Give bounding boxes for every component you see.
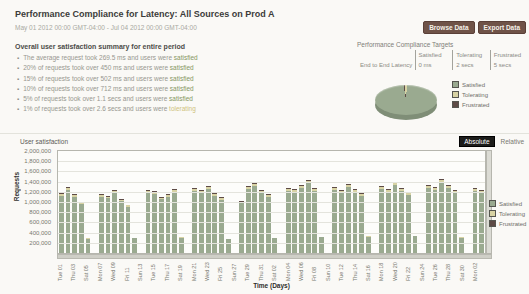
y-axis-label: 1,400,000 (24, 179, 51, 185)
y-axis-label: 600,000 (29, 219, 51, 225)
x-slot: Mon 07 (97, 260, 104, 281)
bar-segment-satisfied (132, 238, 137, 253)
stacked-bar (132, 238, 137, 253)
x-axis-title: Time (Days) (57, 282, 486, 289)
bar-segment-satisfied (212, 196, 217, 253)
pie-chart[interactable] (375, 85, 437, 115)
stacked-bar (79, 202, 84, 253)
targets-title: Performance Compliance Targets (357, 41, 528, 48)
tolerating-legend-swatch (489, 210, 496, 217)
browse-data-button[interactable]: Browse Data (423, 21, 474, 34)
summary-bullet: 5% of requests took over 1.1 secs and us… (17, 94, 198, 104)
bar-segment-satisfied (226, 239, 231, 253)
legend-label: Tolerating (462, 92, 488, 98)
frustrated-legend-swatch (489, 220, 496, 227)
legend-item-satisfied: Satisfied (489, 200, 526, 207)
targets-header-satisfied: Satisfied (415, 50, 453, 60)
stacked-bar (106, 196, 111, 253)
x-slot: Fri 08 (312, 260, 319, 281)
bullet-text: 10% of requests took over 712 ms and use… (23, 85, 170, 92)
bar-segment-satisfied (72, 197, 77, 253)
bar-segment-satisfied (59, 196, 64, 253)
x-slot: Wed 09 (111, 260, 118, 281)
x-slot (345, 260, 352, 281)
y-axis-label: 1,600,000 (24, 168, 51, 174)
bar-segment-satisfied (79, 204, 84, 253)
legend-item-frustrated: Frustrated (489, 220, 526, 227)
gridline (58, 222, 485, 223)
legend-item-tolerating: Tolerating (452, 91, 489, 98)
x-axis-label: Thu 31 (259, 260, 265, 281)
bar-segment-satisfied (166, 197, 171, 253)
bar-segment-satisfied (272, 238, 277, 253)
relative-button[interactable]: Relative (499, 137, 526, 146)
x-axis-labels: Tue 01Thu 03Sat 05Mon 07Wed 09Fri 11Sun … (57, 260, 486, 281)
bar-segment-satisfied (366, 237, 371, 253)
header-buttons: Browse Data Export Data (423, 21, 526, 34)
targets-panel: Performance Compliance Targets Satisfied… (357, 41, 528, 70)
export-data-button[interactable]: Export Data (478, 21, 526, 34)
x-axis-label: Wed 06 (299, 260, 305, 281)
stacked-bar (159, 197, 164, 253)
x-axis-label: Sun 10 (326, 260, 332, 281)
y-axis-label: 400,000 (29, 230, 51, 236)
stacked-bar (319, 237, 324, 253)
stacked-bar (366, 236, 371, 253)
x-slot: Wed 23 (204, 260, 211, 281)
legend-item-satisfied: Satisfied (452, 81, 489, 88)
tolerating-legend-swatch (452, 91, 459, 98)
x-axis-label: Sun 13 (138, 260, 144, 281)
stacked-bar (413, 236, 418, 253)
bullet-text: The average request took 269.5 ms and us… (23, 54, 174, 61)
bullet-text: 5% of requests took over 1.1 secs and us… (23, 95, 169, 102)
bar-segment-satisfied (266, 197, 271, 253)
summary-bullet: 15% of requests took over 502 ms and use… (17, 74, 198, 84)
summary-bullet: 1% of requests took over 2.6 secs and us… (17, 104, 198, 114)
targets-header-frustrated: Frustrated (490, 50, 528, 60)
bar-segment-satisfied (119, 201, 124, 253)
stacked-bar (266, 194, 271, 253)
targets-header-empty (357, 50, 415, 60)
bullet-text: 20% of requests took over 450 ms and use… (23, 64, 170, 71)
absolute-button[interactable]: Absolute (459, 136, 494, 147)
user-satisfaction-title: User satisfaction (20, 138, 68, 145)
x-axis-label: Tue 12 (339, 260, 345, 281)
x-axis-label: Mon 18 (379, 260, 385, 281)
x-axis-label: Tue 01 (58, 260, 64, 281)
legend-label: Tolerating (499, 211, 525, 217)
satisfied-legend-swatch (489, 200, 496, 207)
bar-segment-satisfied (413, 236, 418, 253)
gridline (58, 233, 485, 234)
gridline (58, 243, 485, 244)
x-axis-label: Mon 02 (473, 260, 479, 281)
x-axis-label: Tue 15 (151, 260, 157, 281)
y-axis-label: 2,000,000 (24, 148, 51, 154)
bullet-status: tolerating (169, 105, 196, 112)
pie-legend: SatisfiedToleratingFrustrated (452, 81, 489, 108)
x-axis-label: Fri 22 (406, 260, 412, 281)
x-axis-label: Mon 21 (192, 260, 198, 281)
legend-label: Satisfied (462, 82, 485, 88)
date-range: May 01 2012 00:00 GMT-04:00 - Jul 04 201… (15, 24, 197, 31)
bar-chart-legend: SatisfiedToleratingFrustrated (489, 200, 526, 227)
satisfied-legend-swatch (452, 81, 459, 88)
bar-segment-satisfied (459, 238, 464, 253)
x-slot: Wed 20 (392, 260, 399, 281)
bar-segment-satisfied (159, 199, 164, 253)
x-axis-label: Sat 05 (84, 260, 90, 281)
gridline (58, 161, 485, 162)
summary-bullet: 10% of requests took over 712 ms and use… (17, 84, 198, 94)
y-axis-labels: 200,000400,000600,000800,0001,000,0001,2… (0, 151, 54, 253)
summary-bullet: 20% of requests took over 450 ms and use… (17, 63, 198, 73)
gridline (58, 212, 485, 213)
x-axis-label: Fri 08 (312, 260, 318, 281)
x-axis-label: Mon 04 (286, 260, 292, 281)
x-slot: Sat 16 (365, 260, 372, 281)
x-slot: Mon 02 (473, 260, 480, 281)
x-axis-label: Thu 17 (165, 260, 171, 281)
bar-segment-satisfied (219, 200, 224, 253)
x-axis-label: Fri 25 (218, 260, 224, 281)
bullet-status: satisfied (169, 95, 193, 102)
x-slot: Fri 22 (406, 260, 413, 281)
x-slot (278, 260, 285, 281)
